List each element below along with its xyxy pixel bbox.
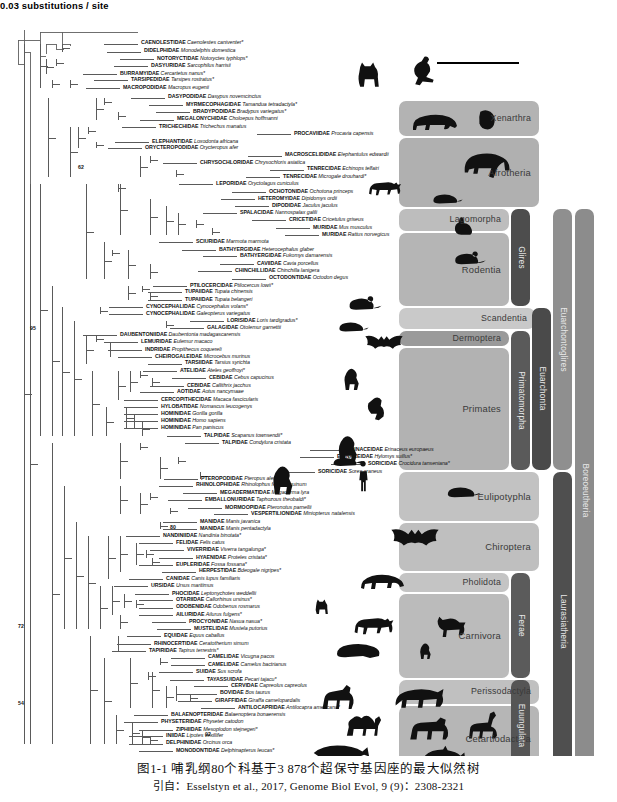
taxon-label: HETEROMYIDAE Dipidomys ordii	[258, 196, 337, 201]
branch-horizontal	[140, 447, 148, 448]
taxon-family: TALPIDAE	[222, 439, 249, 445]
branch-horizontal	[110, 350, 118, 351]
taxon-family: MURIDAE	[322, 231, 348, 237]
taxon-family: CERVIDAE	[231, 682, 259, 688]
taxon-label: SUIDAE Sus scrofa	[196, 669, 242, 674]
branch-horizontal	[159, 486, 193, 487]
taxon-species: Erinaceus europaeus	[384, 446, 433, 452]
branch-horizontal	[157, 629, 191, 630]
taxon-family: MANIDAE	[200, 525, 226, 531]
branch-horizontal	[150, 217, 158, 218]
taxon-species: Tarsius syrichta	[214, 359, 250, 365]
taxon-species: Marmota marmota	[226, 238, 269, 244]
taxon-species: Equus caballus	[189, 632, 224, 638]
taxon-species: Monodelphis domestica	[181, 47, 236, 53]
branch-horizontal	[163, 522, 197, 523]
taxon-family: HETEROMYIDAE	[258, 195, 302, 201]
taxon-species: Cricetulus griseus	[322, 216, 363, 222]
branch-horizontal	[139, 543, 173, 544]
taxon-label: BATHYERGIDAE Heterocephalus glaber	[219, 247, 314, 252]
branch-horizontal	[185, 443, 219, 444]
taxon-species: Tupaia belangeri	[214, 296, 252, 302]
taxon-species: Gorilla gorilla	[192, 410, 222, 416]
branch-horizontal	[140, 375, 148, 376]
taxon-family: ORYCTEROPODIDAE	[145, 144, 200, 150]
branch-horizontal	[140, 392, 174, 393]
branch-horizontal	[100, 608, 108, 609]
taxon-label: CAMELIDAE Vicugna pacos	[208, 654, 274, 659]
taxon-species: Nasua nasua*	[229, 618, 262, 624]
taxon-family: TUPAIIDAE	[185, 296, 214, 302]
taxon-family: FELIDAE	[176, 539, 200, 545]
taxon-family: MACROPODIDAE	[123, 84, 168, 90]
taxon-label: ERINACEIDAE Hylomys suillus*	[337, 454, 412, 459]
taxon-species: Vicugna pacos	[240, 653, 274, 659]
branch-horizontal	[118, 386, 126, 387]
taxon-family: NOTORYCTIDAE	[157, 55, 200, 61]
caption-line-1: 图1-1 哺乳纲80个科基于3 878个超保守基因座的最大似然树	[0, 758, 617, 777]
branch-horizontal	[163, 529, 197, 530]
taxon-label: BOVIDAE Bos taurus	[220, 690, 270, 695]
taxon-species: Propithecus coquereli	[172, 346, 222, 352]
taxon-species: Tarsipes rostratus*	[171, 76, 214, 82]
taxon-family: HOMINIDAE	[161, 424, 192, 430]
branch-horizontal	[221, 199, 255, 200]
taxon-species: Fossa fossana*	[211, 561, 247, 567]
branch-horizontal	[135, 594, 169, 595]
taxon-family: HOMINIDAE	[161, 417, 192, 423]
taxon-family: TENRECIDAE	[283, 173, 318, 179]
branch-horizontal	[52, 84, 60, 85]
clade-label-scandentia: Scandentia	[481, 313, 531, 323]
branch-horizontal	[88, 583, 96, 584]
bootstrap-value: 54	[18, 700, 24, 706]
taxon-family: TAPIRIDAE	[149, 647, 178, 653]
branch-horizontal	[114, 586, 148, 587]
branch-horizontal	[90, 690, 98, 691]
taxon-species: Tamandua tetradactyla*	[242, 101, 297, 107]
branch-horizontal	[183, 694, 217, 695]
branch-horizontal	[168, 500, 202, 501]
branch-horizontal	[179, 184, 213, 185]
clade-label-xenarthra: Xenarthra	[491, 113, 535, 123]
branch-horizontal	[170, 511, 178, 512]
taxon-label: OCHOTONIDAE Ochotona princeps	[269, 189, 353, 194]
hyrax-silhouette	[366, 176, 404, 198]
branch-horizontal	[139, 615, 173, 616]
taxon-species: Callorhinus ursinus*	[206, 596, 252, 602]
branch-horizontal	[248, 156, 282, 157]
branch-horizontal	[170, 680, 204, 681]
taxon-family: HOMINIDAE	[161, 410, 192, 416]
taxon-label: TUPAIIDAE Tupaia belangeri	[185, 297, 252, 302]
clade-label-dermoptera: Dermoptera	[453, 333, 505, 343]
branch-horizontal	[152, 690, 160, 691]
taxon-label: EQUIDAE Equus caballus	[164, 633, 224, 638]
branch-horizontal	[78, 138, 86, 139]
taxon-label: ANTILOCAPRIDAE Antilocapra americana*	[238, 705, 340, 710]
bootstrap-value: 80	[170, 524, 176, 530]
clade-label-euarchontoglires: Euarchontoglires	[559, 289, 568, 389]
branch-horizontal	[198, 271, 232, 272]
branch-horizontal	[70, 84, 78, 85]
branch-horizontal	[120, 210, 128, 211]
taxon-family: CHINCHILLIDAE	[235, 267, 277, 273]
taxon-label: CHEIROGALEIDAE Microcebus murinus	[155, 354, 250, 359]
branch-horizontal	[160, 662, 168, 663]
branch-horizontal	[166, 221, 174, 222]
taxon-label: SORICIDAE Sorex araneus	[318, 469, 382, 474]
taxon-label: TENRECIDAE Echinops telfairi	[307, 166, 379, 171]
taxon-label: PHYSETERIDAE Physeter catodon	[161, 719, 243, 724]
taxon-family: OCHOTONIDAE	[269, 188, 310, 194]
taxon-species: Daubentonia madagascarensis	[169, 331, 241, 337]
taxon-label: MEGALONYCHIDAE Choloepus hoffmanni	[177, 116, 278, 121]
branch-horizontal	[128, 265, 136, 266]
bootstrap-value: 95	[30, 325, 36, 331]
taxon-species: Nandinia binotata*	[199, 532, 241, 538]
branch-horizontal	[130, 382, 138, 383]
taxon-species: Camelus bactrianus	[240, 661, 286, 667]
branch-horizontal	[188, 508, 222, 509]
branch-horizontal	[139, 565, 173, 566]
taxon-species: Balaenoptera bonaerensis	[225, 711, 286, 717]
branch-horizontal	[190, 698, 198, 699]
clade-label-pholidota: Pholidota	[463, 577, 505, 587]
taxon-species: Oryctolagus cuniculus	[248, 180, 299, 186]
